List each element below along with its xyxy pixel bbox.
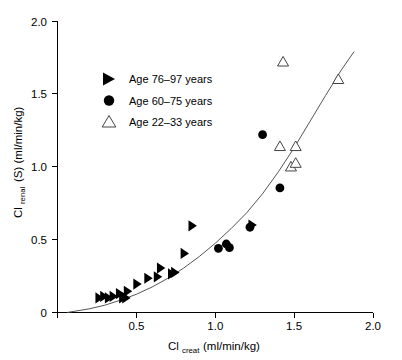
x-tick-label-4: 2.0 [365,320,381,332]
data-point [246,223,255,232]
y-axis-title: Cl renal (S) (ml/min/kg) [12,106,27,218]
x-axis-ticks [58,313,374,319]
data-point [276,183,285,192]
y-tick-label-2: 1.0 [31,161,47,173]
data-point [157,262,165,273]
data-point [278,56,289,66]
scatter-plot-figure: 2.0 1.5 1.0 0.5 0 0.5 1.0 1.5 2.0 Cl cre… [0,0,402,360]
y-tick-label-3: 1.5 [31,88,47,100]
legend-item-age-22-33: Age 22–33 years [102,116,212,129]
y-tick-label-0: 0 [41,307,47,319]
data-point [181,248,189,259]
data-point [133,278,141,289]
fit-curve [67,52,354,313]
legend-label-2: Age 22–33 years [129,116,213,128]
y-tick-label-1: 0.5 [31,234,47,246]
x-axis-title: Cl creat (ml/min/kg) [168,340,260,355]
y-axis-ticks [52,21,58,313]
y-tick-label-4: 2.0 [31,16,47,28]
right-triangle-filled-icon [103,73,115,86]
chart-legend: Age 76–97 years Age 60–75 years Age 22–3… [102,73,212,129]
x-tick-label-1: 0.5 [128,320,144,332]
y-axis-title-main: Cl [12,207,24,218]
data-point [144,273,152,284]
data-point [214,244,223,253]
legend-label-1: Age 60–75 years [129,95,213,107]
x-tick-label-2: 1.0 [207,320,223,332]
data-point [225,243,234,252]
data-point [189,220,197,231]
legend-item-age-60-75: Age 60–75 years [104,95,213,107]
x-tick-label-3: 1.5 [286,320,302,332]
legend-item-age-76-97: Age 76–97 years [103,73,213,86]
data-point [333,74,344,84]
data-point [124,286,132,297]
data-point [290,141,301,151]
plot-canvas: 2.0 1.5 1.0 0.5 0 0.5 1.0 1.5 2.0 Cl cre… [0,0,402,360]
series-markers-age-76-97 [95,219,256,303]
data-point [258,130,267,139]
legend-label-0: Age 76–97 years [129,73,213,85]
x-axis-title-units: (ml/min/kg) [203,340,260,352]
triangle-open-icon [102,116,116,128]
y-axis-title-units: (S) (ml/min/kg) [12,106,24,182]
series-markers-age-22-33 [274,56,343,171]
x-axis-title-main: Cl [168,340,179,352]
data-point [171,267,179,278]
circle-filled-icon [104,95,114,105]
y-axis-title-sub: renal [18,186,27,204]
data-point [274,141,285,151]
x-axis-title-sub: creat [182,346,200,355]
